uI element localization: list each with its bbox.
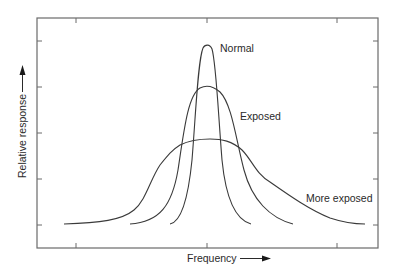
curve-more-exposed	[64, 139, 365, 224]
x-axis-arrow-icon	[262, 256, 271, 262]
x-axis-label: Frequency	[187, 252, 237, 264]
y-axis-label: Relative response	[16, 94, 28, 178]
y-ticks-left	[37, 41, 42, 225]
plot-frame	[37, 18, 378, 248]
label-exposed: Exposed	[240, 110, 281, 122]
curve-exposed	[130, 86, 293, 224]
label-normal: Normal	[220, 42, 254, 54]
y-axis-arrow-icon	[20, 65, 26, 75]
y-ticks-right	[373, 41, 378, 225]
label-more-exposed: More exposed	[306, 192, 373, 204]
response-chart: Normal Exposed More exposed Frequency Re…	[0, 0, 397, 275]
curve-normal	[170, 45, 251, 224]
x-ticks-top	[76, 18, 337, 23]
x-ticks-bottom	[76, 243, 337, 248]
